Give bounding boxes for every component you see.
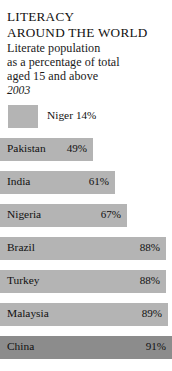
bar-turkey: Turkey88% xyxy=(0,270,166,293)
bar-label: Brazil xyxy=(7,242,35,253)
bar-value: 14% xyxy=(76,109,96,121)
bar-row: Brazil88% xyxy=(0,237,172,270)
bar-row: Niger14% xyxy=(0,105,172,138)
subtitle-line-3: aged 15 and above xyxy=(7,69,166,83)
bar-china: China91% xyxy=(0,336,172,359)
bar-label: Nigeria xyxy=(7,209,41,220)
bar-row: Turkey88% xyxy=(0,270,172,303)
bar-malaysia: Malaysia89% xyxy=(0,303,168,326)
bar-outside-text: Niger14% xyxy=(47,110,96,121)
bar-label: Turkey xyxy=(7,275,40,286)
bar-row: Pakistan49% xyxy=(0,138,172,171)
bar-row: Malaysia89% xyxy=(0,303,172,336)
page-title-line-1: LITERACY xyxy=(7,9,166,25)
literacy-chart-page: LITERACY AROUND THE WORLD Literate popul… xyxy=(0,0,172,371)
bar-value: 88% xyxy=(140,242,160,253)
bar-nigeria: Nigeria67% xyxy=(0,204,127,227)
bar-value: 61% xyxy=(89,176,109,187)
bar-value: 49% xyxy=(67,143,87,154)
chart-header: LITERACY AROUND THE WORLD Literate popul… xyxy=(0,0,172,98)
bar-label: Niger xyxy=(47,109,73,121)
subtitle-line-1: Literate population xyxy=(7,41,166,55)
bar-label: India xyxy=(7,176,30,187)
subtitle-line-2: as a percentage of total xyxy=(7,55,166,69)
bar-row: India61% xyxy=(0,171,172,204)
bar-chart: Niger14%Pakistan49%India61%Nigeria67%Bra… xyxy=(0,105,172,369)
bar-india: India61% xyxy=(0,171,115,194)
year-label: 2003 xyxy=(7,84,166,98)
bar-label: Pakistan xyxy=(7,143,46,154)
bar-row: China91% xyxy=(0,336,172,369)
page-title-line-2: AROUND THE WORLD xyxy=(7,25,166,41)
bar-value: 91% xyxy=(146,341,166,352)
bar-label: Malaysia xyxy=(7,308,49,319)
bar-value: 89% xyxy=(142,308,162,319)
bar-value: 88% xyxy=(140,275,160,286)
bar-value: 67% xyxy=(101,209,121,220)
bar-label: China xyxy=(7,341,34,352)
bar-pakistan: Pakistan49% xyxy=(0,138,93,161)
bar-row: Nigeria67% xyxy=(0,204,172,237)
bar-niger: Niger14% xyxy=(8,105,38,128)
bar-brazil: Brazil88% xyxy=(0,237,166,260)
